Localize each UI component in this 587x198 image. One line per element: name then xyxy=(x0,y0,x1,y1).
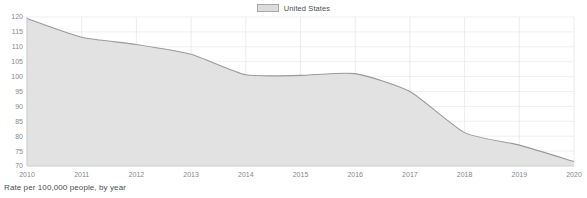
xtick-label: 2010 xyxy=(19,171,35,178)
ytick-label: 95 xyxy=(15,88,23,95)
ytick-label: 120 xyxy=(11,13,23,20)
xtick-label: 2018 xyxy=(457,171,473,178)
ytick-label: 70 xyxy=(15,162,23,169)
ytick-label: 90 xyxy=(15,103,23,110)
xtick-label: 2017 xyxy=(402,171,418,178)
plot-area: 7075808590951001051101151202010201120122… xyxy=(0,0,587,198)
xtick-label: 2011 xyxy=(74,171,89,178)
xtick-label: 2019 xyxy=(512,171,528,178)
xtick-label: 2015 xyxy=(293,171,309,178)
xtick-label: 2016 xyxy=(347,171,363,178)
ytick-label: 85 xyxy=(15,118,23,125)
chart-footnote: Rate per 100,000 people, by year xyxy=(4,183,126,192)
ytick-label: 75 xyxy=(15,148,23,155)
chart-container: United States 70758085909510010511011512… xyxy=(0,0,587,198)
ytick-label: 80 xyxy=(15,133,23,140)
area-chart-svg: 7075808590951001051101151202010201120122… xyxy=(0,0,587,198)
xtick-label: 2020 xyxy=(566,171,582,178)
ytick-label: 105 xyxy=(11,58,23,65)
xtick-label: 2014 xyxy=(238,171,254,178)
xtick-label: 2012 xyxy=(129,171,145,178)
ytick-label: 115 xyxy=(12,28,23,35)
ytick-label: 110 xyxy=(12,43,23,50)
ytick-label: 100 xyxy=(11,73,23,80)
xtick-label: 2013 xyxy=(183,171,199,178)
